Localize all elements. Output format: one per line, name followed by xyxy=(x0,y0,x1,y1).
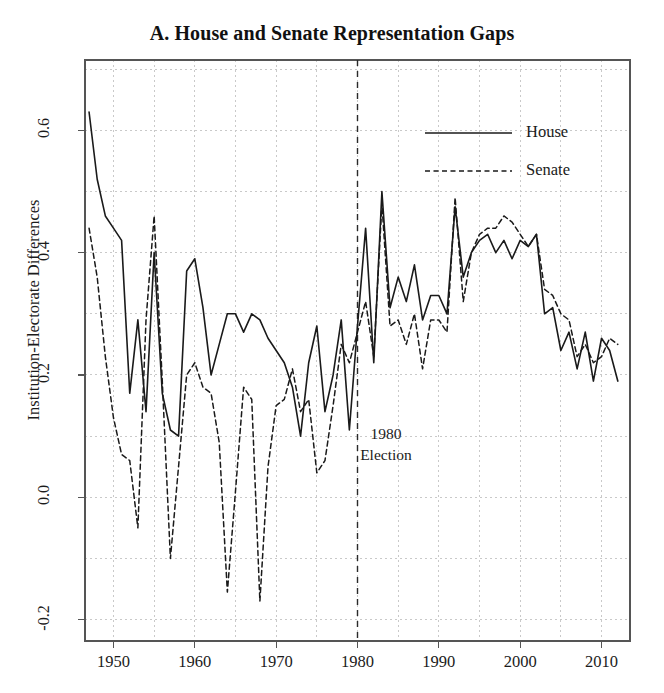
x-tick-label: 1980 xyxy=(318,652,398,672)
y-tick-label: 0.0 xyxy=(35,469,53,521)
x-tick-label: 1970 xyxy=(236,652,316,672)
y-tick-label: 0.6 xyxy=(35,102,53,154)
y-tick-label: 0.4 xyxy=(35,225,53,277)
x-tick-label: 2010 xyxy=(562,652,642,672)
x-tick-label: 2000 xyxy=(480,652,560,672)
x-tick-label: 1990 xyxy=(399,652,479,672)
legend-label-house: House xyxy=(526,122,568,142)
x-tick-label: 1960 xyxy=(155,652,235,672)
chart-title: A. House and Senate Representation Gaps xyxy=(0,22,664,45)
data-series xyxy=(89,112,618,601)
annotation-line-2: Election xyxy=(336,446,436,464)
annotation-line-1: 1980 xyxy=(336,425,436,443)
y-tick-label: 0.2 xyxy=(35,347,53,399)
y-axis-label: Institution-Electorate Differences xyxy=(24,130,44,490)
legend-label-senate: Senate xyxy=(526,160,570,180)
chart-figure: A. House and Senate Representation Gaps … xyxy=(0,0,664,693)
legend-swatches xyxy=(425,133,512,171)
x-tick-label: 1950 xyxy=(73,652,153,672)
plot-area xyxy=(0,0,664,693)
y-tick-label: -0.2 xyxy=(35,592,53,644)
axis-ticks xyxy=(78,130,602,648)
